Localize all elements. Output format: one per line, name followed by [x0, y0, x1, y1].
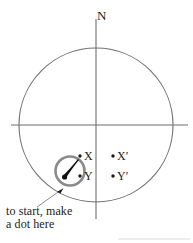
point-x-prime-label: X′ [117, 150, 128, 163]
data-point-y [78, 174, 81, 177]
north-label: N [97, 9, 106, 24]
data-point-x-prime [111, 154, 114, 157]
point-y-label: Y [84, 170, 93, 183]
data-point-x [78, 154, 81, 157]
annotation-line-1: to start, make [6, 205, 72, 218]
compass-needle-icon [62, 160, 79, 180]
figure-canvas: N X Y X′ Y′ to start, make a dot here [0, 0, 193, 243]
annotation-text: to start, make a dot here [6, 205, 72, 232]
annotation-arrowhead-icon [57, 188, 63, 193]
point-x-label: X [84, 150, 93, 163]
annotation-line-2: a dot here [6, 218, 72, 231]
point-y-prime-label: Y′ [117, 170, 128, 183]
data-point-y-prime [111, 174, 114, 177]
